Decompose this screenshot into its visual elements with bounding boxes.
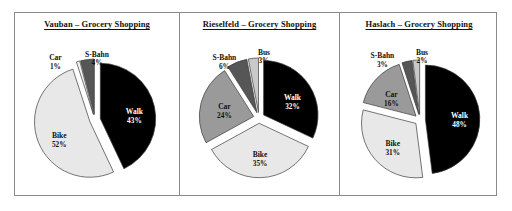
slice-value-car: 1% (50, 62, 61, 71)
slice-value-walk: 32% (285, 102, 300, 111)
slice-value-sbahn: 3% (377, 60, 388, 69)
slice-value-walk: 43% (127, 116, 142, 125)
slice-label-bike: Bike (52, 131, 67, 140)
figure-pie-chart-panels: Vauban – Grocery Shopping Walk43%Bike52%… (0, 0, 512, 211)
slice-label-bus: Bus (416, 48, 428, 57)
pie-chart-haslach: Walk48%Bike31%Car16%S-Bahn3%Bus2% (340, 13, 498, 195)
slice-value-sbahn: 4% (92, 58, 103, 67)
panel-haslach: Haslach – Grocery Shopping Walk48%Bike31… (340, 13, 498, 195)
slice-value-car: 24% (217, 111, 232, 120)
pie-chart-rieselfeld: Walk32%Bike35%Car24%S-Bahn6%Bus3% (180, 13, 339, 195)
pie-chart-vauban: Walk43%Bike52%Car1%S-Bahn4% (15, 13, 179, 195)
slice-label-sbahn: S-Bahn (371, 51, 396, 60)
slice-label-car: Car (385, 90, 398, 99)
panel-rieselfeld: Rieselfeld – Grocery Shopping Walk32%Bik… (180, 13, 339, 195)
pie-svg-vauban: Walk43%Bike52%Car1%S-Bahn4% (15, 13, 179, 195)
slice-value-walk: 48% (452, 120, 467, 129)
slice-label-sbahn: S-Bahn (213, 53, 238, 62)
slice-label-car: Car (49, 53, 62, 62)
slice-value-bus: 3% (258, 56, 269, 65)
slice-value-bus: 2% (416, 56, 427, 65)
slice-value-car: 16% (384, 99, 399, 108)
slice-label-walk: Walk (284, 93, 302, 102)
slice-label-car: Car (218, 102, 231, 111)
slice-value-bike: 52% (52, 140, 67, 149)
pie-svg-haslach: Walk48%Bike31%Car16%S-Bahn3%Bus2% (340, 13, 498, 195)
chart-frame: Vauban – Grocery Shopping Walk43%Bike52%… (14, 12, 497, 196)
slice-label-bus: Bus (258, 48, 270, 57)
slice-value-bike: 31% (385, 148, 400, 157)
slice-label-walk: Walk (451, 111, 469, 120)
slice-label-walk: Walk (126, 107, 144, 116)
slice-label-bike: Bike (253, 151, 268, 160)
panel-vauban: Vauban – Grocery Shopping Walk43%Bike52%… (15, 13, 179, 195)
slice-label-sbahn: S-Bahn (85, 50, 110, 59)
pie-svg-rieselfeld: Walk32%Bike35%Car24%S-Bahn6%Bus3% (180, 13, 339, 195)
slice-value-bike: 35% (253, 159, 268, 168)
slice-value-sbahn: 6% (219, 62, 230, 71)
slice-label-bike: Bike (385, 139, 400, 148)
